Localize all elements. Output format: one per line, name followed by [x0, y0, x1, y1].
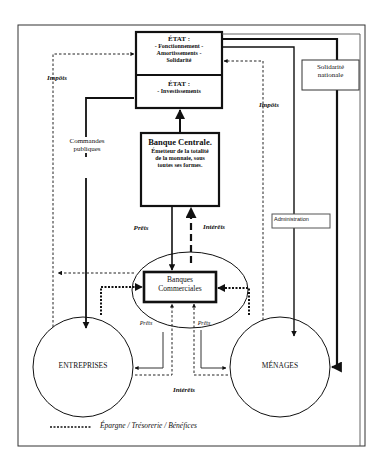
- etat-line: - Fonctionnement -: [136, 43, 222, 50]
- banques-commerciales-node: Banques Commerciales: [144, 276, 216, 293]
- banques-commerciales-line: Commerciales: [144, 285, 216, 294]
- etat-title: ÉTAT :: [136, 35, 222, 43]
- etat-investissements-node: ÉTAT : - Investissements: [136, 80, 222, 95]
- impots-left-label: Impôts: [42, 74, 72, 82]
- banque-centrale-line: de la monnaie, sous: [141, 155, 219, 162]
- solidarite-line: nationale: [302, 71, 359, 79]
- banque-centrale-line: toutes ses formes.: [141, 162, 219, 169]
- commandes-publiques-label: Commandes publiques: [66, 137, 108, 153]
- banque-centrale-node: Banque Centrale. Émetteur de la totalité…: [141, 138, 219, 168]
- entreprises-node: ENTREPRISES: [33, 362, 133, 371]
- etat-line: - Investissements: [136, 88, 222, 95]
- etat-fonctionnement-node: ÉTAT : - Fonctionnement - Amortissements…: [136, 35, 222, 64]
- banque-centrale-title: Banque Centrale.: [141, 138, 219, 148]
- solidarite-nationale-node: Solidarité nationale: [302, 63, 359, 79]
- commandes-line: publiques: [66, 145, 108, 153]
- commandes-line: Commandes: [66, 137, 108, 145]
- menages-node: MÉNAGES: [230, 362, 330, 371]
- prets-menages-label: Prêts: [192, 320, 216, 327]
- interets-central-label: Intérêts: [196, 223, 232, 231]
- banque-centrale-line: Émetteur de la totalité: [141, 148, 219, 155]
- impots-right-label: Impôts: [254, 101, 284, 109]
- interets-bottom-label: Intérêts: [166, 386, 202, 394]
- etat-line: Amortissements -: [136, 50, 222, 57]
- etat-line: Solidarité: [136, 57, 222, 64]
- etat-title: ÉTAT :: [136, 80, 222, 88]
- prets-entreprises-label: Prêts: [134, 320, 158, 327]
- legend-label: Épargne / Trésorerie / Bénéfices: [100, 422, 240, 431]
- solidarite-line: Solidarité: [302, 63, 359, 71]
- prets-central-label: Prêts: [126, 224, 156, 232]
- administration-label: Administration: [272, 216, 332, 222]
